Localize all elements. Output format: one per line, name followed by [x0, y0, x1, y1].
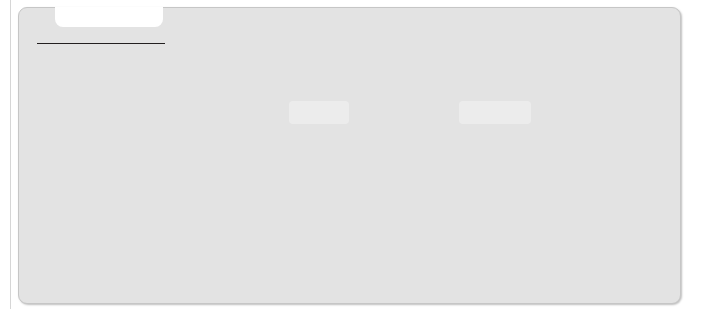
annotation-actual-data — [289, 101, 349, 124]
annotation-cbo-projection — [459, 101, 531, 124]
chart-plot — [0, 0, 709, 309]
